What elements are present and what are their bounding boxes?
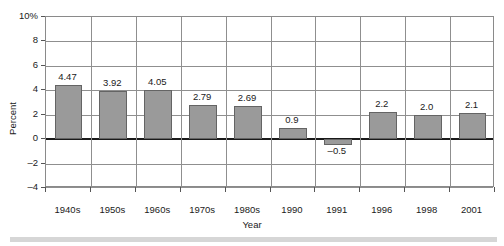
x-tick-mark xyxy=(180,187,181,192)
bar-value-label: 2.79 xyxy=(193,92,212,102)
bar xyxy=(55,85,83,140)
x-tick-mark xyxy=(404,187,405,192)
bar xyxy=(279,128,307,139)
bar-value-label: 2.69 xyxy=(238,93,257,103)
y-tick-label: –2 xyxy=(27,158,38,168)
bar xyxy=(99,91,127,139)
y-tick-label: –4 xyxy=(27,182,38,192)
y-tick-label: 8 xyxy=(33,36,38,46)
bar xyxy=(189,105,217,139)
bar-value-label: 2.1 xyxy=(465,100,478,110)
gridline xyxy=(46,66,493,67)
y-tick-label: 0 xyxy=(33,133,38,143)
vertical-gridline xyxy=(315,17,316,186)
vertical-gridline xyxy=(226,17,227,186)
x-tick-label: 1940s xyxy=(54,205,80,215)
x-tick-label: 1990 xyxy=(281,205,302,215)
y-axis-ticks: 10%86420–2–4 xyxy=(0,0,42,246)
bar-value-label: 2.2 xyxy=(375,99,388,109)
x-tick-mark xyxy=(90,187,91,192)
gridline xyxy=(46,164,493,165)
y-tick-label: 10% xyxy=(19,11,38,21)
x-tick-mark xyxy=(449,187,450,192)
vertical-gridline xyxy=(405,17,406,186)
x-tick-label: 1960s xyxy=(144,205,170,215)
x-tick-mark xyxy=(270,187,271,192)
x-tick-label: 2001 xyxy=(461,205,482,215)
x-tick-mark xyxy=(314,187,315,192)
bar xyxy=(234,106,262,139)
vertical-gridline xyxy=(360,17,361,186)
vertical-gridline xyxy=(181,17,182,186)
bar-value-label: 0.9 xyxy=(285,115,298,125)
y-tick-label: 2 xyxy=(33,109,38,119)
x-tick-label: 1996 xyxy=(371,205,392,215)
x-axis-title: Year xyxy=(0,219,504,230)
x-tick-label: 1991 xyxy=(326,205,347,215)
bar-value-label: 4.05 xyxy=(148,77,167,87)
x-tick-label: 1950s xyxy=(99,205,125,215)
x-tick-mark xyxy=(359,187,360,192)
vertical-gridline xyxy=(136,17,137,186)
footer-band xyxy=(10,237,497,242)
bar xyxy=(144,90,172,139)
x-tick-label: 1970s xyxy=(189,205,215,215)
x-tick-mark xyxy=(494,187,495,192)
x-tick-label: 1998 xyxy=(416,205,437,215)
y-tick-label: 4 xyxy=(33,85,38,95)
y-tick-label: 6 xyxy=(33,60,38,70)
bar xyxy=(414,115,442,139)
vertical-gridline xyxy=(450,17,451,186)
chart-figure: Percent 10%86420–2–4 1940s1950s1960s1970… xyxy=(0,0,504,246)
x-tick-mark xyxy=(135,187,136,192)
bar-value-label: –0.5 xyxy=(328,146,347,156)
x-tick-mark xyxy=(225,187,226,192)
bar xyxy=(369,112,397,139)
vertical-gridline xyxy=(91,17,92,186)
x-tick-mark xyxy=(45,187,46,192)
gridline xyxy=(46,41,493,42)
bar-value-label: 4.47 xyxy=(58,72,77,82)
bar-value-label: 3.92 xyxy=(103,78,122,88)
bar-value-label: 2.0 xyxy=(420,102,433,112)
x-tick-label: 1980s xyxy=(234,205,260,215)
vertical-gridline xyxy=(271,17,272,186)
bar xyxy=(459,113,487,139)
